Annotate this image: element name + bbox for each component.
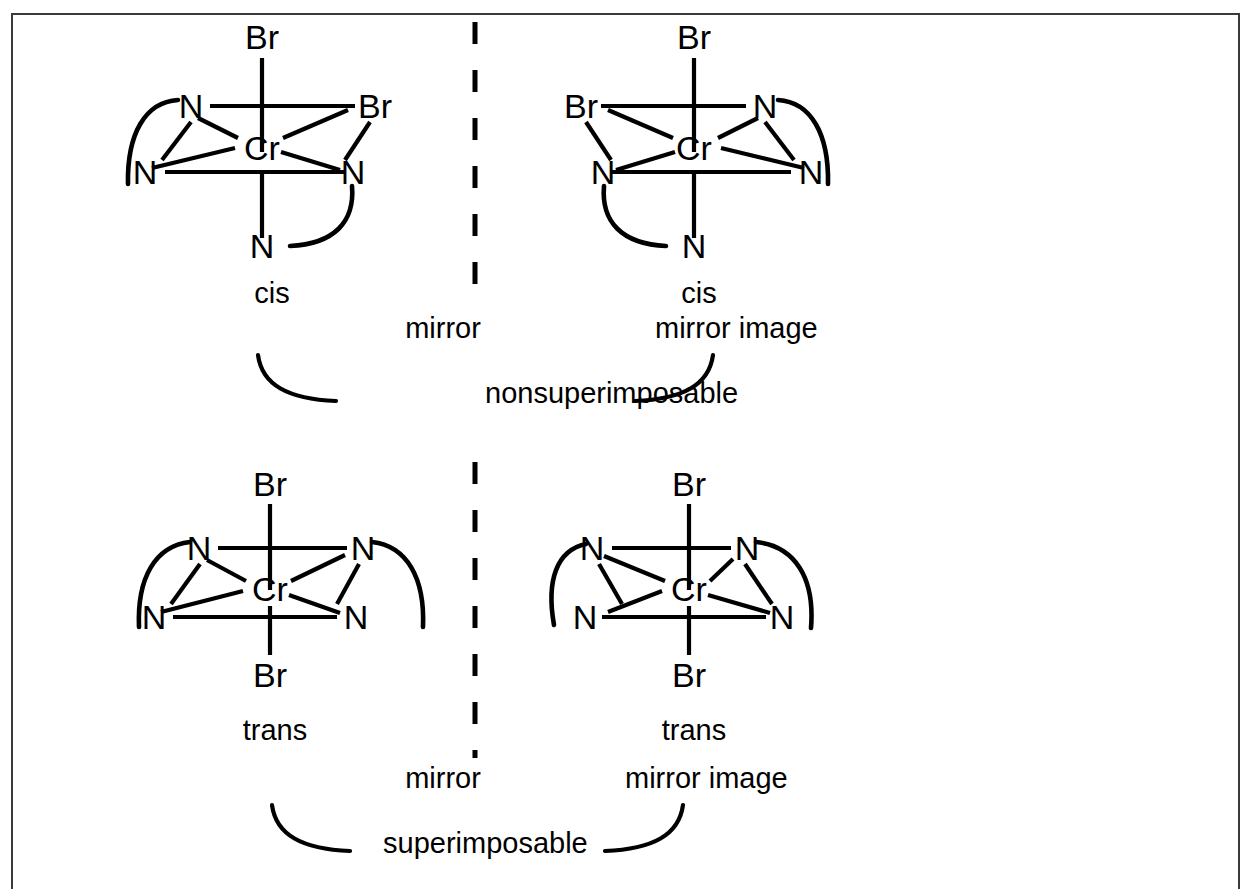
caption-mirror-image-bottom: mirror image (625, 762, 788, 794)
figure-page: Br Br Cr N N N N Br Br Cr N (0, 0, 1252, 889)
atom-label-n-upper-right: N (753, 87, 778, 125)
atom-label-n-bottom: N (682, 227, 707, 265)
bond-cr-n-upperleft (207, 560, 246, 581)
atom-label-n-left: N (591, 153, 616, 191)
structure-cis-left: Br Br Cr N N N N (128, 18, 392, 265)
brace-left-nonsuperimposable (258, 355, 336, 401)
atom-label-n-right: N (341, 153, 366, 191)
caption-mirror-bottom: mirror (405, 762, 481, 794)
caption-cis-right: cis (681, 277, 716, 309)
brace-right-superimposable (605, 805, 683, 851)
atom-label-cr: Cr (244, 129, 280, 167)
structure-trans-left: Br Br Cr N N N N (139, 465, 423, 694)
atom-label-cr: Cr (671, 570, 707, 608)
structures-canvas: Br Br Cr N N N N Br Br Cr N (0, 0, 1252, 889)
bond-cr-br-right (283, 110, 348, 138)
structure-trans-right: Br Br Cr N N N N (551, 465, 811, 694)
atom-label-cr: Cr (676, 129, 712, 167)
atom-label-br-top: Br (245, 18, 279, 56)
bond-chelate-inner-right (765, 122, 794, 160)
atom-label-n-upper-right: N (351, 529, 376, 567)
atom-label-br-bottom: Br (253, 656, 287, 694)
bond-cr-n-lowerright (289, 595, 340, 613)
atom-label-br-top: Br (677, 18, 711, 56)
chelate-arc-right (372, 542, 423, 627)
chelate-arc-bottom-right (290, 186, 352, 246)
bond-cr-n-upperright (291, 555, 345, 581)
atom-label-br-top: Br (253, 465, 287, 503)
bond-cr-n-right (281, 152, 340, 170)
atom-label-br-left: Br (564, 87, 598, 125)
bond-chelate-inner-left (162, 122, 191, 160)
atom-label-n-upper-left: N (187, 529, 212, 567)
caption-superimposable: superimposable (383, 827, 588, 859)
atom-label-br-right: Br (358, 87, 392, 125)
atom-label-n-lower-left: N (573, 598, 598, 636)
atom-label-n-upper-right: N (735, 529, 760, 567)
atom-label-br-top: Br (672, 465, 706, 503)
atom-label-cr: Cr (252, 570, 288, 608)
bond-cr-n-upperright (710, 559, 733, 581)
atom-label-n-lower-right: N (344, 598, 369, 636)
bond-cr-n-upperleft (604, 556, 665, 581)
caption-nonsuperimposable: nonsuperimposable (485, 377, 738, 409)
atom-label-n-lower-left: N (142, 598, 167, 636)
atom-label-n-bottom: N (250, 227, 275, 265)
atom-label-n-lower-right: N (799, 153, 824, 191)
atom-label-n-upper-left: N (179, 87, 204, 125)
caption-mirror-top: mirror (405, 312, 481, 344)
bond-chelate-inner-left (171, 564, 200, 604)
caption-mirror-image-top: mirror image (655, 312, 818, 344)
brace-left-superimposable (272, 805, 350, 851)
bond-cr-br-left (608, 110, 673, 138)
bond-chelate-inner-right (745, 564, 772, 604)
bond-cr-n-left (616, 152, 675, 170)
bond-cr-n-lowerright (708, 595, 770, 613)
caption-cis-left: cis (254, 277, 289, 309)
atom-label-n-lower-left: N (133, 153, 158, 191)
structure-cis-right: Br Br Cr N N N N (564, 18, 828, 265)
atom-label-n-lower-right: N (770, 598, 795, 636)
bond-cr-n-upperleft (198, 118, 238, 138)
atom-label-br-bottom: Br (672, 656, 706, 694)
chelate-arc-bottom-left (604, 186, 666, 246)
caption-trans-left: trans (243, 714, 307, 746)
atom-label-n-upper-left: N (580, 529, 605, 567)
caption-trans-right: trans (662, 714, 726, 746)
bond-chelate-inner-left (599, 564, 622, 604)
